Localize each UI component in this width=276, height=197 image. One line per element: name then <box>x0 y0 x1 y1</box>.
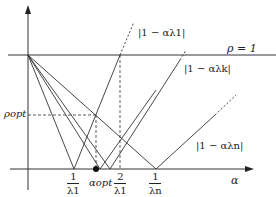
alpha-opt-point <box>93 166 99 172</box>
curve-lambda1-label: |1 − αλ1| <box>138 27 185 38</box>
curve-lambda1 <box>28 55 120 169</box>
diagram: ρ = 1 ρopt |1 − αλ1| |1 − αλk| |1 − αλn|… <box>0 0 276 197</box>
rho-one-label: ρ = 1 <box>227 42 257 55</box>
rho-opt-label: ρopt <box>4 108 26 119</box>
alpha-opt-label: αopt <box>89 177 112 188</box>
tick-1-over-lambdan: 1λn <box>149 171 162 196</box>
curve-lambdak-label: |1 − αλk| <box>184 63 231 74</box>
x-axis-label: α <box>231 174 238 187</box>
curve-lambdan-label: |1 − αλn| <box>196 140 243 151</box>
x-axis-arrow-icon <box>245 166 254 172</box>
tick-2-over-lambda1: 2λ1 <box>114 171 127 196</box>
y-axis-arrow-icon <box>25 5 31 14</box>
tick-1-over-lambda1: 1λ1 <box>67 171 80 196</box>
